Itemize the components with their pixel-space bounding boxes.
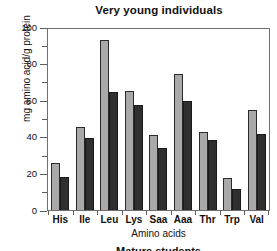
bar-trp-light [223, 178, 232, 210]
chart-title: Very young individuals [48, 4, 270, 16]
y-tick-minor [42, 119, 47, 120]
bar-group [51, 29, 69, 210]
bar-his-light [51, 163, 60, 210]
chart-figure: Very young individuals mg amino acid/g p… [0, 0, 277, 251]
bar-ile-light [76, 127, 85, 210]
y-tick-minor [42, 156, 47, 157]
bar-aaa-light [174, 74, 183, 210]
y-tick-major: 20 [40, 174, 47, 175]
y-tick-label: 80 [26, 57, 37, 70]
bar-val-light [248, 110, 257, 210]
y-tick-major: 40 [40, 137, 47, 138]
bar-aaa-dark [183, 101, 192, 211]
bar-group [149, 29, 167, 210]
bar-his-dark [60, 177, 69, 210]
bar-trp-dark [232, 189, 241, 210]
y-tick-minor [42, 82, 47, 83]
x-label-saa: Saa [146, 214, 171, 225]
bar-leu-dark [109, 92, 118, 210]
x-label-val: Val [244, 214, 269, 225]
bar-group [223, 29, 241, 210]
bar-lys-light [125, 91, 134, 210]
bar-group [125, 29, 143, 210]
bar-group [248, 29, 266, 210]
y-tick-label: 20 [26, 167, 37, 180]
y-tick-label: 40 [26, 130, 37, 143]
y-tick-label: 60 [26, 94, 37, 107]
bar-group [100, 29, 118, 210]
x-label-his: His [48, 214, 73, 225]
y-tick-minor [42, 192, 47, 193]
bar-thr-light [199, 132, 208, 210]
bar-thr-dark [208, 140, 217, 210]
bar-ile-dark [85, 138, 94, 210]
y-tick-major: 0 [40, 211, 47, 212]
y-tick-minor [42, 46, 47, 47]
bar-leu-light [100, 40, 109, 210]
x-label-ile: Ile [73, 214, 98, 225]
bar-group [199, 29, 217, 210]
x-label-leu: Leu [97, 214, 122, 225]
x-label-aaa: Aaa [171, 214, 196, 225]
bottom-caption: Mature students [48, 245, 269, 251]
x-label-trp: Trp [220, 214, 245, 225]
bar-group [174, 29, 192, 210]
y-tick-label: 0 [32, 204, 37, 217]
y-tick-major: 60 [40, 101, 47, 102]
x-axis-labels: HisIleLeuLysSaaAaaThrTrpVal [48, 214, 269, 225]
y-tick-label: 100 [21, 21, 37, 34]
bar-group [76, 29, 94, 210]
y-tick-major: 100 [40, 28, 47, 29]
bars-container [48, 29, 269, 210]
bar-val-dark [257, 134, 266, 210]
x-axis-title: Amino acids [48, 228, 269, 239]
x-label-lys: Lys [122, 214, 147, 225]
bar-lys-dark [134, 105, 143, 210]
y-tick-major: 80 [40, 64, 47, 65]
x-label-thr: Thr [195, 214, 220, 225]
bar-saa-dark [158, 148, 167, 210]
bar-saa-light [149, 135, 158, 210]
